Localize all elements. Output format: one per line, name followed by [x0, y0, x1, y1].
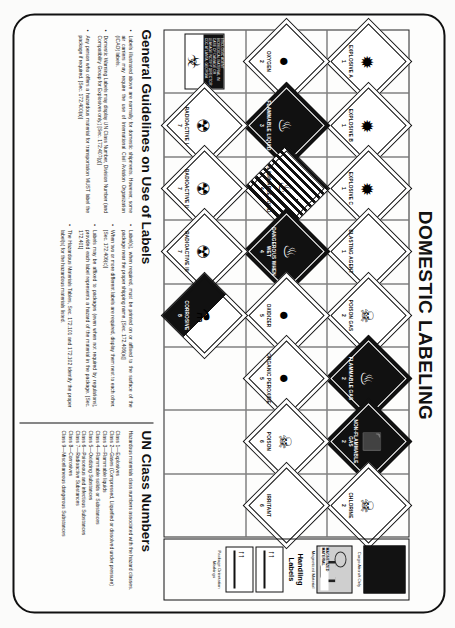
placard-class-number: 7 [176, 250, 182, 253]
placard-label-text: DANGEROUS WHEN WET [265, 223, 275, 279]
package-orientation-caption: Package Orientation Markings [212, 542, 222, 596]
cargo-aircraft-caption: Cargo Aircraft Only [357, 551, 362, 586]
placard-label-text: RADIOACTIVE III [183, 231, 188, 272]
magnetized-material-caption: Magnetized Material [310, 550, 315, 588]
placard-class-number: 7 [176, 187, 182, 190]
placard-label-text: EXPLOSIVE C [347, 171, 352, 204]
placard-class-number: 3 [258, 123, 264, 126]
placard-class-number: 2 [340, 440, 346, 443]
un-class-item: Class 6—Poisonous and infectious Substan… [80, 430, 87, 600]
magnetized-material-label: MAGNETIZED MATERIAL Magnetized Material [310, 542, 353, 596]
bullet-text: Any person who offers a hazardous materi… [77, 35, 90, 213]
guideline-bullet: •Domestic Warning Labels may display UN … [95, 29, 108, 213]
bullet-dot-icon: • [77, 29, 90, 35]
orientation-baseline [233, 550, 235, 588]
guidelines-right-column: •Label(s), when required, must be printe… [54, 224, 133, 408]
guideline-bullet: •When two or more different labels are r… [102, 224, 115, 408]
hazard-placard: ⚗CORROSIVE8 [160, 271, 248, 359]
hazard-symbol-icon: ☢ [189, 117, 215, 132]
label-grid-cell [164, 474, 245, 536]
placard-class-number: 5 [258, 377, 264, 380]
placard-label-text: NON-FLAMMABLE GAS [347, 413, 357, 469]
bullet-text: Labels illustrated above are normally fo… [113, 35, 133, 213]
label-grid-column: ☠CHLORINE2IRRITANT6 [164, 474, 408, 536]
general-guidelines-section: General Guidelines on Use of Labels •Lab… [19, 29, 153, 415]
placard-label-text: CORROSIVE [183, 300, 188, 330]
placard-content: ⚗CORROSIVE8 [174, 285, 234, 345]
placard-label-text: RADIOACTIVE II [183, 168, 188, 207]
etiologic-caption-band: ETIOLOGIC AGENT BIOMEDICAL MATERIAL IN C… [203, 34, 223, 88]
placard-label-text: POISON GAS [347, 299, 352, 331]
label-grid-cell: ☠CHLORINE2 [326, 474, 408, 536]
label-grid-cell [164, 410, 245, 472]
bullet-dot-icon: • [113, 29, 133, 35]
placard-label-text: RADIOACTIVE I [183, 106, 188, 143]
hazard-symbol-icon: ♨ [275, 244, 301, 259]
placard-label-text: FLAMMABLE LIQUID [265, 100, 270, 150]
hazard-symbol-icon: ♨ [352, 371, 378, 386]
un-class-item: Class 1—Explosives [114, 430, 121, 600]
orientation-arrow-icon-1: ↑↑ [255, 546, 283, 592]
hazard-symbol-icon: ☢ [189, 244, 215, 259]
hazard-symbol-icon: ☠ [352, 307, 378, 322]
guidelines-title: General Guidelines on Use of Labels [138, 29, 153, 407]
hazard-symbol-icon: ☠ [270, 434, 296, 449]
bullet-text: Label(s), when required, must be printed… [120, 230, 133, 408]
guideline-bullet: •Label(s), when required, must be printe… [120, 224, 133, 408]
hazard-symbol-icon: ● [270, 373, 296, 383]
arrow-up-glyph: ↑↑ [266, 550, 275, 588]
placard-label-text: OXYGEN [265, 51, 270, 72]
arrow-up-glyph: ↑↑ [236, 550, 245, 588]
placard-class-number: 1 [340, 250, 346, 253]
etiologic-caption-text: ETIOLOGIC AGENT BIOMEDICAL MATERIAL IN C… [203, 37, 223, 88]
placard-class-number: 1 [340, 123, 346, 126]
placard-label-text: FLAMMABLE SOLID [265, 164, 270, 212]
label-grid-cell [164, 347, 245, 409]
placard-class-number: 5 [258, 313, 264, 316]
guideline-bullet: •The Hazardous Materials Tables, Sec. 17… [59, 224, 72, 408]
placard-class-number: 7 [176, 123, 182, 126]
bullet-dot-icon: • [102, 224, 115, 230]
handling-labels-panel: Cargo Aircraft Only MAGNETIZED MATERIAL … [163, 538, 409, 600]
placard-label-text: EXPLOSIVE B [347, 108, 352, 141]
hazard-symbol-icon: ✹ [352, 118, 378, 132]
bullet-dot-icon: • [59, 224, 72, 230]
hazard-label-grid: ✹EXPLOSIVE A1●OXYGEN2ETIOLOGIC AGENT BIO… [163, 29, 409, 537]
hazard-symbol-icon: ● [270, 56, 296, 66]
placard-content: IRRITANT6 [256, 475, 316, 535]
placard-label-text: ORGANIC PEROXIDE [265, 353, 270, 404]
un-classes-list: Class 1—ExplosivesClass 2—Gases (Compres… [59, 430, 120, 600]
bullet-text: The Hazardous Materials Tables, Sec. 172… [59, 230, 72, 408]
guidelines-left-column: •Labels illustrated above are normally f… [54, 29, 133, 213]
guideline-bullet: •Any person who offers a hazardous mater… [77, 29, 90, 213]
handling-labels-title: Handling Labels [286, 542, 304, 596]
placard-label-text: CHLORINE [347, 492, 352, 518]
un-class-item: Class 8—Corrosives [66, 430, 73, 600]
orientation-baseline [263, 550, 265, 588]
placard-label-text: EXPLOSIVE A [347, 45, 352, 78]
placard-class-number: 4 [258, 250, 264, 253]
bullet-text: When two or more different labels are re… [102, 230, 115, 408]
hazard-symbol-icon: ● [270, 310, 296, 320]
label-grid-cell: ⚗CORROSIVE8 [164, 284, 245, 346]
un-class-item: Class 2—Gases (Compressed, Liquefied or … [107, 430, 114, 600]
un-class-item: Class 9—Miscellaneous dangerous Substanc… [59, 430, 66, 600]
placard-class-number: 2 [258, 60, 264, 63]
biohazard-icon: ☣ [182, 34, 203, 88]
placard-content: ☠CHLORINE2 [338, 475, 398, 535]
un-classes-title: UN Class Numbers [138, 430, 153, 600]
magnetized-material-icon: MAGNETIZED MATERIAL [317, 545, 353, 593]
placard-class-number: 2 [340, 313, 346, 316]
placard-label-text: BLASTING AGENT [347, 229, 352, 273]
hazard-symbol-icon: ✹ [352, 181, 378, 195]
un-class-item: Class 4—Flammable solids or Substances [93, 430, 100, 600]
bullet-text: Labels may be affixed to packages (even … [77, 230, 97, 408]
magnetized-material-text: MAGNETIZED MATERIAL [321, 546, 329, 590]
placard-class-number: 6 [258, 503, 264, 506]
section-divider [19, 422, 153, 423]
placard-label-text: POISON [265, 432, 270, 451]
hazard-symbol-icon: ☢ [189, 180, 215, 195]
cargo-aircraft-icon [363, 545, 405, 593]
bullet-dot-icon: • [120, 224, 133, 230]
hazard-symbol-icon: ♨ [270, 180, 296, 195]
